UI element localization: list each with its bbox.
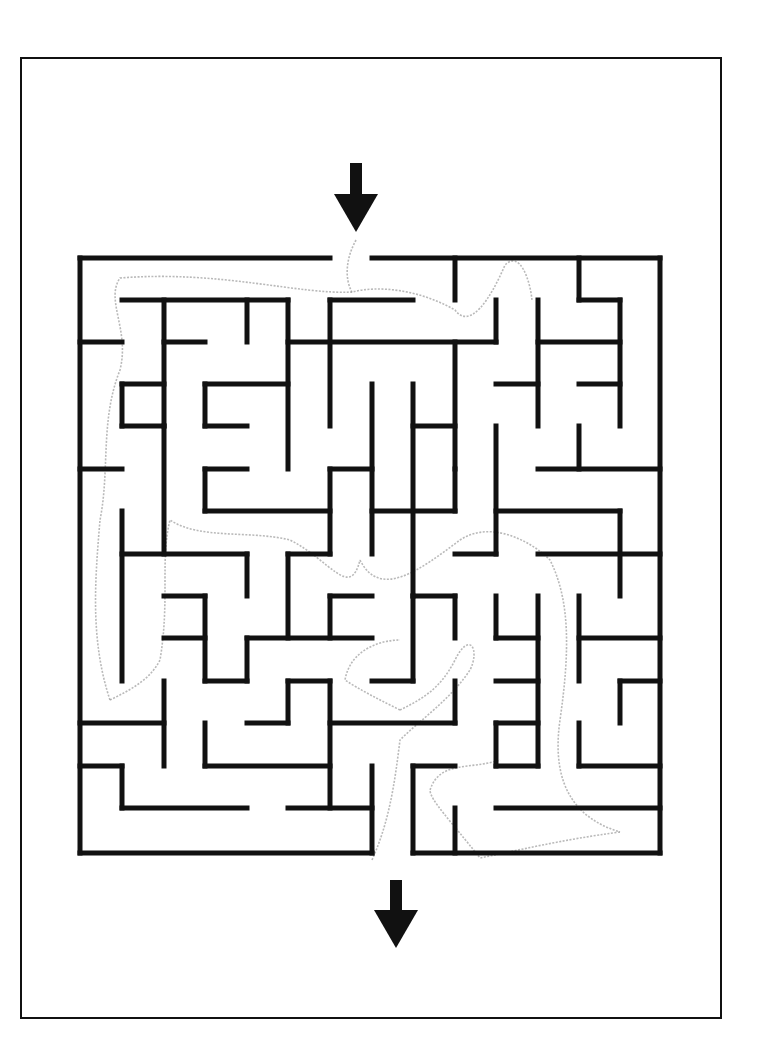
start-arrow-icon (334, 163, 378, 232)
maze-walls (80, 258, 660, 853)
pencil-stroke (110, 520, 360, 700)
arrows (334, 163, 418, 948)
pencil-stroke (372, 645, 474, 860)
maze (0, 0, 758, 1057)
finish-arrow-icon (374, 880, 418, 948)
pencil-solution-trace (96, 240, 620, 860)
pencil-stroke (347, 240, 532, 316)
pencil-stroke (345, 640, 400, 710)
